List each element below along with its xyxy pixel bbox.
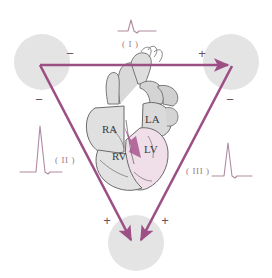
chamber-label-right-ventricle: RV (112, 150, 126, 162)
chamber-label-right-atrium: RA (102, 123, 117, 135)
polarity-minus-left-arm-lead-iii: − (224, 93, 236, 106)
polarity-plus-left-leg-lead-iii: + (159, 214, 171, 227)
lead-iii-label: ( III ) (186, 166, 210, 176)
lead-ii-label: ( II ) (55, 155, 75, 165)
polarity-plus-left-leg-lead-ii: + (101, 214, 113, 227)
chamber-label-left-ventricle: LV (144, 143, 158, 155)
polarity-minus-right-arm-lead-ii: − (33, 93, 45, 106)
lead-i-label: ( I ) (122, 39, 139, 49)
einthoven-triangle-diagram: − + − + − + ( I ) ( II ) ( III ) RA LA R… (0, 0, 272, 278)
polarity-minus-right-arm-lead-i: − (64, 47, 76, 60)
polarity-plus-left-arm-lead-i: + (196, 47, 208, 60)
chamber-label-left-atrium: LA (145, 113, 160, 125)
